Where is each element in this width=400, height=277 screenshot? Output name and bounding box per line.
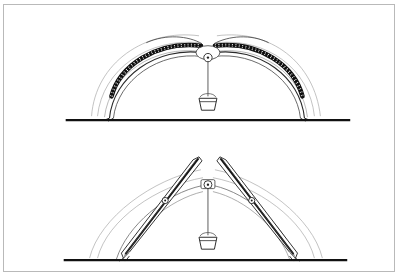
beam-eyelet-right	[249, 197, 255, 203]
bucket-body-bottom	[199, 237, 217, 249]
beam-right-highlight	[222, 159, 294, 255]
beam-eyelet-left	[162, 197, 168, 203]
figure-bottom	[4, 5, 394, 271]
diagram-page	[0, 0, 400, 277]
plate-border	[3, 4, 395, 272]
crown-ring-bottom	[201, 180, 215, 189]
pulley-axle-bottom	[207, 183, 209, 185]
figure-bottom-canvas	[4, 5, 394, 271]
beam-right	[217, 157, 298, 258]
eyelet-right-hole	[251, 200, 253, 202]
eyelet-left-hole	[164, 200, 166, 202]
beam-left	[121, 157, 202, 258]
